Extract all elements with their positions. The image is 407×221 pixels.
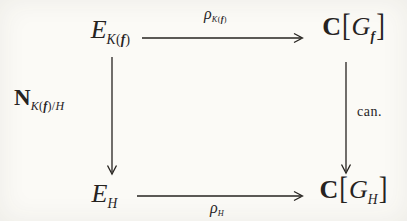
node-E-H: EH [52, 179, 157, 211]
right-arrow [342, 62, 351, 173]
subscript-K: K [107, 32, 116, 47]
rho: ρ [210, 199, 218, 216]
right-bracket: ] [375, 9, 386, 44]
norm-N: N [14, 85, 31, 110]
left-bracket: [ [338, 172, 349, 207]
subscript-H: H [368, 192, 378, 207]
label-rho-H: ρH [172, 199, 262, 218]
label-subscript: K(f) [212, 15, 227, 24]
commutative-diagram: EK(f) C[Gf] EH C[GH] ρK(f) NK(f)/H can. … [0, 0, 407, 221]
subscript-rparen: ) [126, 32, 131, 47]
label-subscript: K(f)/H [31, 99, 65, 113]
node-base-E: E [92, 179, 108, 208]
node-C: C [322, 12, 341, 41]
subscript-H: H [107, 196, 117, 211]
subscript-H: H [218, 209, 224, 218]
node-subscript: K(f) [107, 32, 131, 47]
subscript-H: H [55, 99, 64, 113]
left-bracket: [ [341, 9, 352, 44]
node-base-E: E [91, 15, 107, 44]
node-C-G-f: C[Gf] [303, 12, 405, 44]
node-C: C [320, 175, 339, 204]
node-C-G-H: C[GH] [300, 175, 407, 207]
rho: ρ [204, 5, 212, 22]
label-norm-K-f-H: NK(f)/H [14, 85, 64, 114]
left-arrow [108, 57, 117, 174]
node-E-K-f: EK(f) [58, 15, 163, 47]
label-can: can. [357, 104, 382, 120]
node-G: G [349, 175, 368, 204]
top-arrow [142, 34, 303, 43]
label-rho-K-f: ρK(f) [168, 5, 263, 24]
right-bracket: ] [378, 172, 389, 207]
subscript-K: K [31, 99, 39, 113]
subscript-rparen: ) [224, 15, 227, 24]
node-G: G [352, 12, 371, 41]
